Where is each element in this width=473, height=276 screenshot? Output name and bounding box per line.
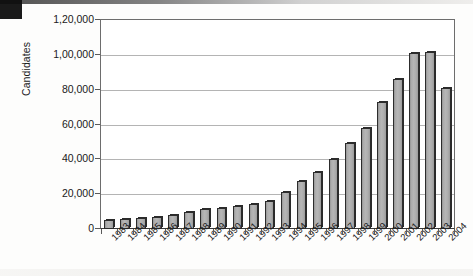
bar-fill [409,53,419,229]
y-tick-label: 1,20,000 [53,13,94,25]
x-tick-mark [326,229,327,234]
bar [425,52,435,229]
x-tick-mark [374,229,375,234]
x-tick-mark [390,229,391,234]
bar-series [101,20,454,229]
y-tick-label: 40,000 [62,152,94,164]
x-tick-mark [133,229,134,234]
bar [409,53,419,229]
bar [345,143,355,229]
y-tick-label: 60,000 [62,118,94,130]
bar [393,79,403,229]
bar [104,220,114,229]
x-tick-mark [454,229,455,234]
scan-bottom-smudge [0,269,473,276]
bar [377,102,387,229]
y-tick-label: 1,00,000 [53,48,94,60]
bar [441,88,451,229]
x-tick-mark [438,229,439,234]
bar-fill [104,220,114,229]
bar-fill [393,79,403,229]
y-tick-label: 20,000 [62,187,94,199]
bar-fill [345,143,355,229]
bar [329,159,339,229]
y-tick-label: 80,000 [62,83,94,95]
x-tick-mark [229,229,230,234]
x-tick-mark [213,229,214,234]
y-tick-mark [95,89,100,90]
x-tick-mark [406,229,407,234]
y-tick-mark [95,54,100,55]
bar-fill [377,102,387,229]
y-tick-mark [95,124,100,125]
y-axis-tick-labels: 020,00040,00060,00080,0001,00,0001,20,00… [0,0,100,240]
y-tick-label: 0 [88,222,94,234]
bar-chart-candidates: Candidates 020,00040,00060,00080,0001,00… [0,0,473,276]
x-tick-mark [422,229,423,234]
x-tick-mark [294,229,295,234]
bar [361,128,371,229]
bar-fill [425,52,435,229]
x-tick-mark [358,229,359,234]
bar-fill [329,159,339,229]
x-tick-mark [149,229,150,234]
y-tick-mark [95,193,100,194]
x-tick-mark [165,229,166,234]
x-tick-mark [278,229,279,234]
y-tick-mark [95,19,100,20]
bar-fill [441,88,451,229]
x-tick-mark [101,229,102,234]
x-tick-mark [261,229,262,234]
y-tick-mark [95,228,100,229]
x-tick-mark [245,229,246,234]
x-tick-mark [342,229,343,234]
x-tick-mark [310,229,311,234]
x-tick-mark [117,229,118,234]
x-tick-mark [181,229,182,234]
x-tick-mark [197,229,198,234]
y-tick-mark [95,158,100,159]
bar-fill [361,128,371,229]
